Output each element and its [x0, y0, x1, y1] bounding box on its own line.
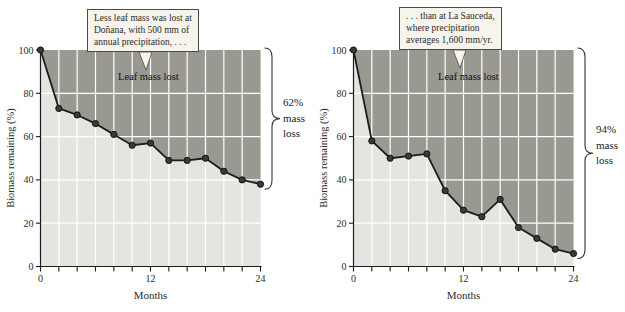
callout-line: Less leaf mass was lost at — [94, 13, 192, 25]
y-tick-label: 40 — [337, 174, 347, 185]
mass-loss-pct: 62% — [283, 95, 305, 111]
x-tick-label: 12 — [146, 273, 156, 284]
y-axis-title: Biomass remaining (%) — [318, 108, 329, 208]
y-tick-label: 80 — [337, 88, 347, 99]
data-point — [92, 121, 98, 127]
mass-loss-label-la-sauceda: 94% mass loss — [596, 122, 618, 169]
y-tick-label: 100 — [19, 45, 34, 56]
data-point — [497, 196, 503, 202]
x-tick-label: 12 — [459, 273, 469, 284]
x-tick-label: 24 — [569, 273, 579, 284]
mass-loss-label-donana: 62% mass loss — [283, 95, 305, 142]
data-point — [369, 138, 375, 144]
data-point — [515, 224, 521, 230]
mass-loss-word: loss — [283, 126, 305, 142]
y-tick-label: 100 — [332, 45, 347, 56]
mass-loss-word: mass — [596, 138, 618, 154]
mass-loss-brace — [265, 48, 281, 189]
data-point — [37, 47, 43, 53]
x-axis-title: Months — [353, 289, 574, 301]
y-tick-label: 0 — [29, 261, 34, 272]
data-point — [221, 168, 227, 174]
area-label-leaf-mass-lost: Leaf mass lost — [438, 71, 499, 82]
mass-loss-pct: 94% — [596, 122, 618, 138]
data-point — [74, 112, 80, 118]
y-tick-label: 40 — [24, 174, 34, 185]
x-axis-title: Months — [40, 289, 261, 301]
callout-line: averages 1,600 mm/yr. — [406, 35, 495, 47]
y-tick-label: 60 — [24, 131, 34, 142]
data-point — [202, 155, 208, 161]
data-point — [257, 181, 263, 187]
data-point — [460, 207, 466, 213]
callout-donana: Less leaf mass was lost at Doñana, with … — [87, 9, 199, 52]
data-point — [534, 235, 540, 241]
mass-loss-brace — [578, 48, 594, 259]
y-tick-label: 0 — [342, 261, 347, 272]
mass-loss-word: mass — [283, 111, 305, 127]
mass-loss-word: loss — [596, 153, 618, 169]
data-point — [239, 177, 245, 183]
chart-donana: 02040608010001224 Biomass remaining (%) … — [0, 0, 312, 312]
callout-la-sauceda: . . . than at La Sauceda, where precipit… — [399, 7, 502, 50]
biomass-decomposition-figure: 02040608010001224 Biomass remaining (%) … — [0, 0, 625, 312]
y-axis-title: Biomass remaining (%) — [5, 108, 16, 208]
y-tick-label: 80 — [24, 88, 34, 99]
callout-line: Doñana, with 500 mm of — [94, 25, 192, 37]
data-point — [570, 250, 576, 256]
callout-line: where precipitation — [406, 23, 495, 35]
data-point — [552, 246, 558, 252]
data-point — [129, 142, 135, 148]
data-point — [442, 188, 448, 194]
callout-line: . . . than at La Sauceda, — [406, 11, 495, 23]
x-tick-label: 0 — [38, 273, 43, 284]
x-tick-label: 24 — [256, 273, 266, 284]
data-point — [184, 157, 190, 163]
y-tick-label: 20 — [24, 218, 34, 229]
x-tick-label: 0 — [351, 273, 356, 284]
area-label-leaf-mass-lost: Leaf mass lost — [118, 71, 179, 82]
data-point — [405, 153, 411, 159]
data-point — [424, 151, 430, 157]
data-point — [387, 155, 393, 161]
data-point — [111, 131, 117, 137]
callout-line: annual precipitation, . . . — [94, 37, 192, 49]
chart-la-sauceda: 02040608010001224 Biomass remaining (%) … — [313, 0, 625, 312]
data-point — [56, 105, 62, 111]
data-point — [147, 140, 153, 146]
data-point — [166, 157, 172, 163]
data-point — [350, 47, 356, 53]
y-tick-label: 20 — [337, 218, 347, 229]
y-tick-label: 60 — [337, 131, 347, 142]
data-point — [479, 214, 485, 220]
